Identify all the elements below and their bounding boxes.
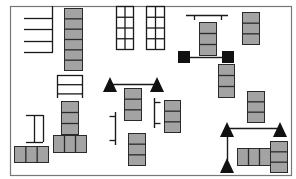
stack-bottom-right-horizontal [238,148,271,166]
block-stack [125,89,142,121]
stack-center-under-bar [124,89,142,121]
t-bar-top [186,15,228,20]
stack-right-mid [247,92,265,123]
block-stack [271,142,288,173]
block-stack [165,101,181,133]
stack-left-center-horizontal [54,135,87,153]
side-bracket-left [110,112,116,145]
weight-plate-right [222,51,234,63]
stack-right-mid-upper [218,65,235,98]
comb-rack-top-left [24,6,53,53]
block-stack [15,147,49,163]
i-bracket-bottom-left [26,115,44,143]
stack-left-center-vertical [61,102,79,135]
stack-center-right [164,101,181,133]
stack-top-right [242,13,260,45]
weight-plate-left [178,51,190,63]
stack-bottom-right-vertical [270,142,288,173]
block-stack [129,134,146,166]
triangle-marker [220,122,234,137]
block-stack [248,92,265,123]
grid-rack-2 [146,6,165,50]
floor-plan-diagram [0,0,296,179]
block-stack [62,102,79,135]
ladder-rack [57,75,83,98]
stack-bottom-left-horizontal [15,146,49,163]
block-stack [219,65,235,98]
stack-top-left-column [64,9,83,71]
grid-rack-1 [116,6,134,50]
triangle-marker [273,122,287,137]
block-stack [238,149,271,166]
stack-center-bottom [128,134,146,166]
stack-center-top [199,23,217,56]
block-stack [54,136,87,153]
block-stack [200,23,217,56]
side-bracket-right [155,98,161,128]
block-stack [243,13,260,45]
floor-plan-svg [0,0,296,179]
triangle-marker [220,158,234,173]
